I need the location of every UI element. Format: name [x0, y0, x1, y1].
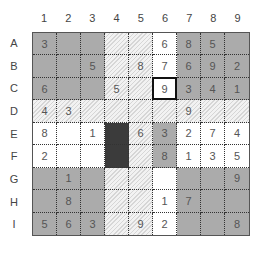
cell-H1[interactable]	[33, 190, 57, 212]
cell-I9[interactable]: 8	[225, 213, 249, 235]
cell-F8[interactable]: 3	[201, 145, 225, 167]
cell-G3[interactable]	[81, 168, 105, 190]
cell-G1[interactable]	[33, 168, 57, 190]
cell-E5[interactable]: 6	[129, 123, 153, 145]
cell-B2[interactable]	[57, 55, 81, 77]
cell-H9[interactable]	[225, 190, 249, 212]
cell-G5[interactable]	[129, 168, 153, 190]
cell-H8[interactable]	[201, 190, 225, 212]
cell-C5[interactable]	[129, 78, 153, 100]
cell-H3[interactable]	[81, 190, 105, 212]
cell-B8[interactable]: 9	[201, 55, 225, 77]
cell-G7[interactable]	[177, 168, 201, 190]
cell-I2[interactable]: 6	[57, 213, 81, 235]
column-label: 3	[80, 12, 104, 24]
cell-F5[interactable]	[129, 145, 153, 167]
cell-E9[interactable]: 4	[225, 123, 249, 145]
cell-A9[interactable]	[225, 33, 249, 55]
column-label: 1	[32, 12, 56, 24]
cell-D5[interactable]	[129, 100, 153, 122]
cell-C3[interactable]	[81, 78, 105, 100]
cell-G2[interactable]: 1	[57, 168, 81, 190]
cell-I6[interactable]: 2	[153, 213, 177, 235]
cell-A4[interactable]	[105, 33, 129, 55]
column-label: 7	[177, 12, 201, 24]
cell-A7[interactable]: 8	[177, 33, 201, 55]
cell-G9[interactable]: 9	[225, 168, 249, 190]
cell-C8[interactable]: 4	[201, 78, 225, 100]
row-label: D	[6, 105, 22, 117]
cell-I4[interactable]	[105, 213, 129, 235]
row-label: C	[6, 82, 22, 94]
cell-G4[interactable]	[105, 168, 129, 190]
column-label: 8	[201, 12, 225, 24]
cell-E2[interactable]	[57, 123, 81, 145]
column-label: 5	[129, 12, 153, 24]
cell-C6[interactable]: 9	[153, 78, 177, 100]
cell-G8[interactable]	[201, 168, 225, 190]
cell-F7[interactable]: 1	[177, 145, 201, 167]
cell-D2[interactable]: 3	[57, 100, 81, 122]
cell-A2[interactable]	[57, 33, 81, 55]
cell-E7[interactable]: 2	[177, 123, 201, 145]
cell-E1[interactable]: 8	[33, 123, 57, 145]
cell-B5[interactable]: 8	[129, 55, 153, 77]
column-label: 9	[226, 12, 250, 24]
cell-C7[interactable]: 3	[177, 78, 201, 100]
cell-F3[interactable]	[81, 145, 105, 167]
cell-B7[interactable]: 6	[177, 55, 201, 77]
cell-C2[interactable]	[57, 78, 81, 100]
cell-A6[interactable]: 6	[153, 33, 177, 55]
cell-D8[interactable]	[201, 100, 225, 122]
cell-D6[interactable]	[153, 100, 177, 122]
cell-H6[interactable]: 1	[153, 190, 177, 212]
cell-D9[interactable]	[225, 100, 249, 122]
cell-D1[interactable]: 4	[33, 100, 57, 122]
row-label: G	[6, 173, 22, 185]
cell-G6[interactable]	[153, 168, 177, 190]
sudoku-grid: 3685587692659341439816327428135198175639…	[32, 32, 250, 236]
cell-H7[interactable]: 7	[177, 190, 201, 212]
cell-C9[interactable]: 1	[225, 78, 249, 100]
cell-B4[interactable]	[105, 55, 129, 77]
cell-E3[interactable]: 1	[81, 123, 105, 145]
cell-A1[interactable]: 3	[33, 33, 57, 55]
cell-I8[interactable]	[201, 213, 225, 235]
cell-B1[interactable]	[33, 55, 57, 77]
cell-D7[interactable]: 9	[177, 100, 201, 122]
row-label: A	[6, 37, 22, 49]
cell-I5[interactable]: 9	[129, 213, 153, 235]
row-label: H	[6, 196, 22, 208]
column-label: 4	[105, 12, 129, 24]
column-label: 6	[153, 12, 177, 24]
cell-E4[interactable]	[105, 123, 129, 145]
cell-B9[interactable]: 2	[225, 55, 249, 77]
cell-I7[interactable]	[177, 213, 201, 235]
cell-F1[interactable]: 2	[33, 145, 57, 167]
cell-F4[interactable]	[105, 145, 129, 167]
cell-C4[interactable]: 5	[105, 78, 129, 100]
cell-H4[interactable]	[105, 190, 129, 212]
cell-A3[interactable]	[81, 33, 105, 55]
cell-A8[interactable]: 5	[201, 33, 225, 55]
column-label: 2	[56, 12, 80, 24]
row-label: E	[6, 128, 22, 140]
cell-A5[interactable]	[129, 33, 153, 55]
cell-E8[interactable]: 7	[201, 123, 225, 145]
cell-F2[interactable]	[57, 145, 81, 167]
cell-H2[interactable]: 8	[57, 190, 81, 212]
cell-D4[interactable]	[105, 100, 129, 122]
row-label: B	[6, 60, 22, 72]
cell-H5[interactable]	[129, 190, 153, 212]
cell-I3[interactable]: 3	[81, 213, 105, 235]
cell-D3[interactable]	[81, 100, 105, 122]
cell-F9[interactable]: 5	[225, 145, 249, 167]
cell-B3[interactable]: 5	[81, 55, 105, 77]
row-label: F	[6, 150, 22, 162]
cell-F6[interactable]: 8	[153, 145, 177, 167]
cell-I1[interactable]: 5	[33, 213, 57, 235]
row-label: I	[6, 218, 22, 230]
cell-C1[interactable]: 6	[33, 78, 57, 100]
cell-B6[interactable]: 7	[153, 55, 177, 77]
cell-E6[interactable]: 3	[153, 123, 177, 145]
